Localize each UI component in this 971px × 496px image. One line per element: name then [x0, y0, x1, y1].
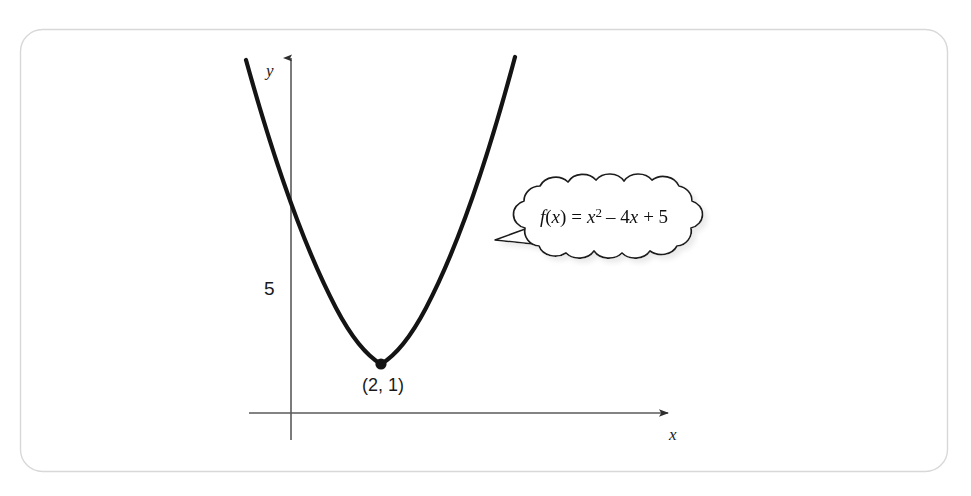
- vertex-point-dot: [375, 358, 386, 369]
- figure-frame: [21, 30, 948, 472]
- equation-term1-exponent: 2: [595, 205, 602, 220]
- equation-term3: + 5: [643, 206, 668, 227]
- equation-term2: – 4: [605, 206, 630, 227]
- y-axis-label: y: [264, 61, 274, 80]
- vertex-point-label: (2, 1): [362, 375, 404, 395]
- equation-paren-close: ): [560, 206, 566, 228]
- y-intercept-label: 5: [264, 278, 275, 299]
- x-axis-label: x: [668, 425, 677, 444]
- equation-equals: =: [571, 206, 582, 227]
- parabola-figure: y x 5 (2, 1) f(x)=x2– 4x+ 5: [0, 0, 971, 496]
- figure-container: y x 5 (2, 1) f(x)=x2– 4x+ 5: [0, 0, 971, 496]
- equation-term2-var: x: [629, 206, 639, 227]
